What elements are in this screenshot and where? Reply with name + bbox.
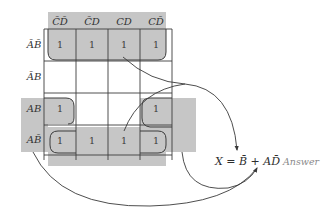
- cell-3-1: 1: [89, 135, 95, 146]
- cell-2-0: 1: [57, 103, 63, 114]
- row-header-1: ĀB: [26, 71, 42, 82]
- answer-label: Answer: [282, 156, 321, 167]
- expression-text: X = B̄ + AD̄: [214, 155, 280, 168]
- cell-2-3: 1: [153, 103, 159, 114]
- shaded-regions: [21, 12, 196, 166]
- cell-0-3: 1: [153, 39, 159, 50]
- col-header-0: C̄D̄: [52, 16, 68, 27]
- group-b-bar-bottom-shade: [48, 127, 166, 166]
- row-header-0: ĀB̄: [26, 39, 42, 50]
- cell-3-0: 1: [57, 135, 63, 146]
- karnaugh-map-diagram: C̄D̄ C̄D CD CD̄ ĀB̄ ĀB AB AB̄ 1 1 1 1 1 …: [0, 0, 332, 215]
- cell-3-3: 1: [153, 135, 159, 146]
- result-expression: X = B̄ + AD̄ Answer: [214, 155, 321, 168]
- col-header-3: CD̄: [148, 16, 164, 27]
- row-header-3: AB̄: [26, 134, 42, 145]
- col-header-2: CD: [116, 16, 132, 27]
- col-header-1: C̄D: [84, 16, 100, 27]
- cell-0-0: 1: [57, 39, 63, 50]
- cell-0-2: 1: [121, 39, 127, 50]
- cell-3-2: 1: [121, 135, 127, 146]
- row-header-2: AB: [26, 103, 42, 114]
- cell-0-1: 1: [89, 39, 95, 50]
- group-b-bar-top-shade: [48, 29, 166, 60]
